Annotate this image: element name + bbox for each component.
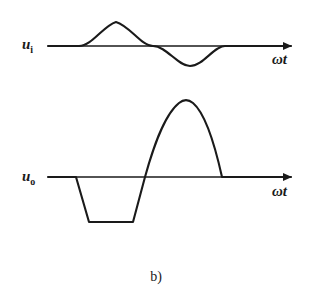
waveform-figure: ui uo ωt ωt b): [0, 0, 312, 307]
input-signal-label: ui: [22, 37, 33, 55]
input-axis-label: ωt: [272, 52, 287, 67]
output-axis-label: ωt: [272, 184, 287, 199]
input-sine-wave: [48, 22, 291, 66]
output-signal-label-sub: o: [30, 176, 35, 187]
figure-caption: b): [0, 270, 312, 284]
input-signal-label-sub: i: [30, 44, 33, 55]
output-signal-label: uo: [22, 169, 35, 187]
output-clipped-wave: [48, 100, 291, 222]
waveform-canvas: [0, 0, 312, 307]
